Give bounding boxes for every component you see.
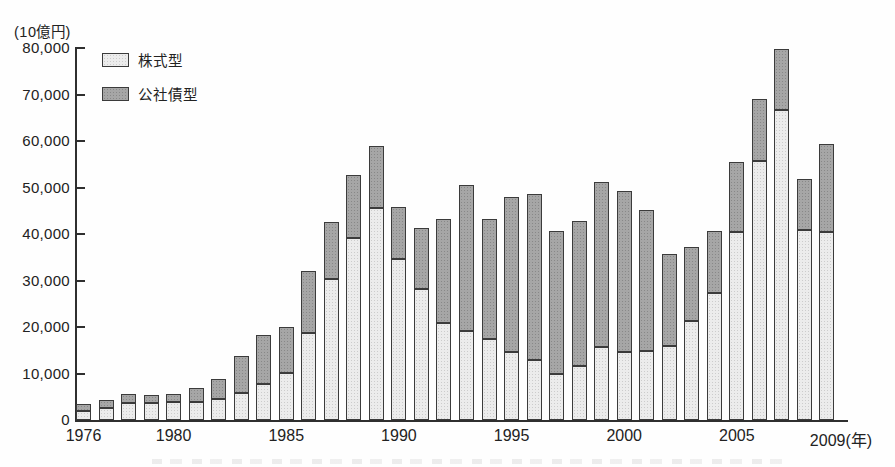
bar-1985-equity-segment [279,373,294,420]
bar-1990 [391,207,406,420]
bar-1990-bond-segment [391,207,406,260]
plot-area [76,48,848,420]
bar-2007 [774,49,789,420]
y-axis-tick-40000 [77,233,85,235]
bar-1983-equity-segment [234,393,249,420]
bar-1988-bond-segment [346,175,361,238]
bar-2002 [662,254,677,420]
bar-1992-equity-segment [436,323,451,420]
bar-2003-equity-segment [684,321,699,420]
bar-1980 [166,394,181,421]
bar-1990-equity-segment [391,259,406,420]
bar-2007-equity-segment [774,110,789,420]
x-axis-label-1980: 1980 [156,427,192,445]
bar-1977 [99,400,114,420]
bar-1993-bond-segment [459,185,474,331]
bar-1997-bond-segment [549,231,564,373]
bar-1988 [346,175,361,420]
bar-2009-bond-segment [819,144,834,231]
stacked-bar-chart-figure: (10億円) 株式型 公社債型 010,00020,00030,00040,00… [0,0,895,467]
y-axis-tick-60000 [77,140,85,142]
bar-1982-equity-segment [211,399,226,420]
bar-2003-bond-segment [684,247,699,321]
x-axis-label-2000: 2000 [606,427,642,445]
bar-1981 [189,388,204,420]
bar-1977-equity-segment [99,408,114,420]
bar-1986 [301,271,316,420]
bar-1982 [211,379,226,420]
y-axis-label-40000: 40,000 [0,225,70,243]
bar-2002-equity-segment [662,346,677,420]
bar-2006-bond-segment [752,99,767,161]
bar-2001-equity-segment [639,351,654,420]
bar-1994 [482,219,497,420]
bar-1998 [572,221,587,420]
y-axis-unit-label: (10億円) [14,20,71,41]
bar-1993 [459,185,474,420]
bar-1995 [504,197,519,420]
bar-2008-equity-segment [797,230,812,420]
bar-2004-bond-segment [707,231,722,293]
bar-1996 [527,194,542,420]
bar-1999-bond-segment [594,182,609,347]
bar-2004-equity-segment [707,293,722,420]
bar-1995-bond-segment [504,197,519,351]
bar-2005 [729,162,744,420]
bar-1988-equity-segment [346,238,361,420]
bar-2005-equity-segment [729,232,744,420]
bar-1999-equity-segment [594,347,609,420]
bar-1998-equity-segment [572,366,587,420]
bar-1987-bond-segment [324,222,339,278]
bar-2006-equity-segment [752,161,767,420]
bar-1979-bond-segment [144,395,159,403]
y-axis-tick-80000 [77,47,85,49]
y-axis-label-0: 0 [0,411,70,429]
bar-1981-bond-segment [189,388,204,402]
x-axis-label-2009: 2009(年) [810,427,872,451]
y-axis-label-10000: 10,000 [0,365,70,383]
x-axis-label-2005: 2005 [719,427,755,445]
bar-1979 [144,395,159,420]
bar-1976-equity-segment [76,411,91,420]
bar-2000 [617,191,632,420]
bar-1995-equity-segment [504,352,519,420]
bar-1985 [279,327,294,420]
bar-1981-equity-segment [189,402,204,420]
x-axis-label-1990: 1990 [381,427,417,445]
bar-2008-bond-segment [797,179,812,230]
bar-1987 [324,222,339,420]
bar-1983-bond-segment [234,356,249,392]
bar-2006 [752,99,767,420]
bar-1980-equity-segment [166,402,181,420]
bar-1982-bond-segment [211,379,226,399]
bar-2002-bond-segment [662,254,677,346]
y-axis-label-30000: 30,000 [0,272,70,290]
bar-2000-bond-segment [617,191,632,352]
bar-1985-bond-segment [279,327,294,373]
y-axis-label-80000: 80,000 [0,39,70,57]
bar-1986-equity-segment [301,333,316,420]
bar-1993-equity-segment [459,331,474,420]
bar-2001-bond-segment [639,210,654,351]
bar-1989-equity-segment [369,208,384,420]
bar-1998-bond-segment [572,221,587,366]
bar-1977-bond-segment [99,400,114,408]
bar-2005-bond-segment [729,162,744,232]
bar-1984 [256,335,271,420]
bar-1991 [414,228,429,420]
x-axis-label-1985: 1985 [268,427,304,445]
bar-1978-bond-segment [121,394,136,402]
bar-2004 [707,231,722,420]
bar-2000-equity-segment [617,352,632,420]
x-axis-label-1995: 1995 [494,427,530,445]
bar-2007-bond-segment [774,49,789,110]
x-axis-label-1976: 1976 [66,427,102,445]
bar-1978-equity-segment [121,403,136,420]
bar-2009-equity-segment [819,232,834,420]
bar-1984-equity-segment [256,384,271,420]
bar-1989 [369,146,384,420]
bar-1984-bond-segment [256,335,271,384]
bar-1986-bond-segment [301,271,316,333]
bar-2003 [684,247,699,420]
bar-1991-equity-segment [414,289,429,420]
